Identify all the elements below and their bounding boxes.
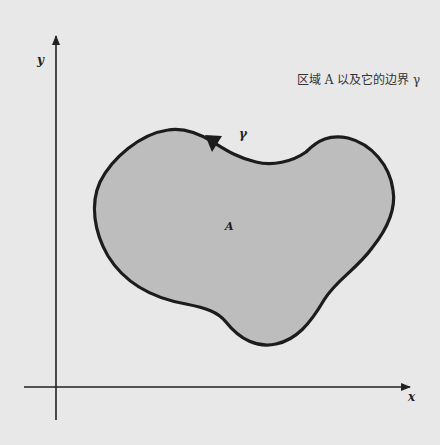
diagram-canvas: 区域 A 以及它的边界 γ y x γ A (0, 0, 440, 445)
diagram-title: 区域 A 以及它的边界 γ (297, 70, 420, 87)
boundary-label: γ (239, 127, 247, 141)
diagram-svg (0, 0, 440, 445)
y-axis-label: y (37, 53, 44, 67)
x-axis-label: x (408, 390, 415, 404)
region-label: A (225, 220, 234, 233)
region-a-boundary (94, 129, 393, 345)
